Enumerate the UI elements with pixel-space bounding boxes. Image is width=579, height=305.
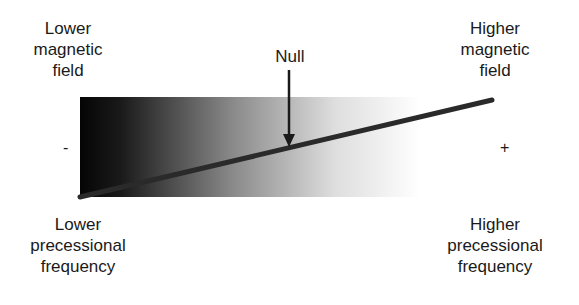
label-line: Lower [18,18,118,39]
label-line: frequency [18,256,138,277]
lower-precessional-frequency-label: Lower precessional frequency [18,214,138,277]
label-line: precessional [18,235,138,256]
label-line: Higher [430,214,560,235]
label-line: magnetic [18,39,118,60]
label-line: field [18,60,118,81]
label-line: frequency [430,256,560,277]
label-line: Lower [18,214,138,235]
label-line: magnetic [445,39,545,60]
lower-magnetic-field-label: Lower magnetic field [18,18,118,81]
magnetic-field-gradient [80,97,420,197]
label-line: Higher [445,18,545,39]
minus-sign: - [63,139,68,157]
label-line: field [445,60,545,81]
higher-precessional-frequency-label: Higher precessional frequency [430,214,560,277]
plus-sign: + [500,139,509,157]
label-line: precessional [430,235,560,256]
null-label: Null [268,47,312,67]
higher-magnetic-field-label: Higher magnetic field [445,18,545,81]
